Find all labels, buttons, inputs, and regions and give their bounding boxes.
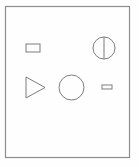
diagram-canvas	[0, 0, 139, 167]
tiny-rectangle-right	[102, 85, 112, 89]
small-rectangle-top-left	[26, 44, 40, 52]
triangle-left	[26, 77, 45, 98]
shapes-svg	[0, 0, 139, 167]
outer-border-frame	[6, 7, 130, 158]
large-circle-center	[59, 75, 84, 100]
